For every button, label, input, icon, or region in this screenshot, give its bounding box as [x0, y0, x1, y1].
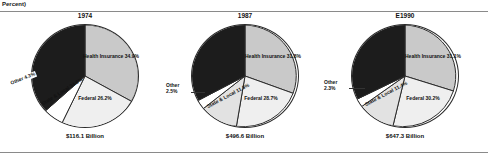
label-health-insurance-name2: Insurance [422, 53, 446, 59]
bottom-divider-rule [0, 152, 488, 153]
label-federal: Federal 28.7% [241, 96, 281, 102]
label-federal: Federal 26.2% [75, 96, 115, 102]
label-health-insurance-name: Health [405, 53, 420, 59]
chart-total-label: $496.6 Billion [165, 133, 325, 139]
label-other-value: 2.5% [166, 89, 179, 95]
leader-line-other [349, 88, 365, 89]
label-health-insurance-name: Health [83, 53, 98, 59]
label-federal-value: 30.2% [426, 95, 440, 101]
pie-svg [192, 25, 298, 127]
label-other-value: 2.3% [324, 86, 337, 92]
label-health-insurance-name: Health [245, 53, 260, 59]
label-health-insurance-value: 31.1% [447, 53, 461, 59]
pie-svg [32, 25, 138, 127]
label-health-insurance-value: 34.9% [125, 53, 139, 59]
pie-chart-1974: 1974 Health Insurance 34.9% Federal 26.2… [5, 12, 165, 152]
label-other: Other 2.5% [165, 83, 180, 95]
label-federal: Federal 30.2% [403, 96, 443, 102]
label-health-insurance-value: 31.8% [287, 53, 301, 59]
chart-total-label: $116.1 Billion [5, 133, 165, 139]
label-federal-name: Federal [244, 95, 262, 101]
pie-circle [31, 24, 139, 128]
leader-line-other [191, 92, 205, 93]
label-health-insurance-name2: Insurance [262, 53, 286, 59]
pie-graphic: Health Insurance 34.9% Federal 26.2% Sta… [31, 24, 139, 128]
label-health-insurance: Health Insurance 31.8% [245, 54, 291, 60]
label-other: Other 2.3% [323, 80, 338, 92]
label-health-insurance-name2: Insurance [100, 53, 124, 59]
label-federal-value: 28.7% [264, 95, 278, 101]
pie-chart-1987: 1987 Health Insurance 31.8% Federal [165, 12, 325, 152]
label-federal-name: Federal [78, 95, 96, 101]
pie-circle [351, 24, 459, 128]
label-other-name: Other [9, 75, 24, 86]
pie-svg [352, 25, 458, 127]
label-federal-value: 26.2% [98, 95, 112, 101]
chart-year-label: 1974 [5, 12, 165, 19]
label-health-insurance: Health Insurance 31.1% [405, 54, 451, 60]
chart-total-label: $647.3 Billion [325, 133, 485, 139]
chart-year-label: E1990 [325, 12, 485, 19]
pie-graphic: Health Insurance 31.8% Federal 28.7% Sta… [191, 24, 299, 128]
chart-year-label: 1987 [165, 12, 325, 19]
label-health-insurance: Health Insurance 34.9% [83, 54, 129, 60]
page-header-text: Percent) [2, 1, 26, 7]
pie-circle [191, 24, 299, 128]
label-federal-name: Federal [406, 95, 424, 101]
pie-graphic: Health Insurance 31.1% Federal 30.2% Sta… [351, 24, 459, 128]
pie-chart-e1990: E1990 Health Insurance 31.1% Federal [325, 12, 485, 152]
